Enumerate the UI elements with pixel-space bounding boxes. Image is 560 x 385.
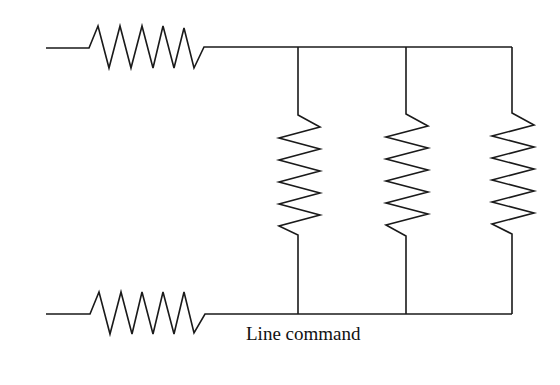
parallel-resistor-2 [386, 47, 428, 314]
diagram-caption: Line command [246, 323, 361, 345]
parallel-resistor-3 [492, 47, 534, 314]
parallel-resistor-1 [279, 47, 320, 314]
top-series-resistor [46, 26, 298, 68]
